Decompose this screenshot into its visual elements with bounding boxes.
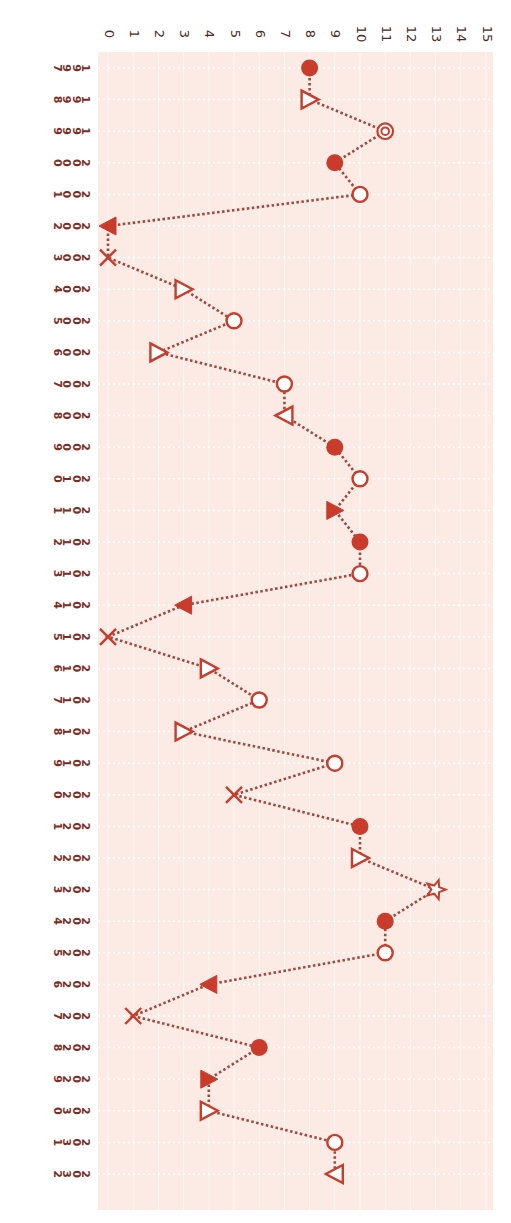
svg-text:9: 9 — [51, 759, 64, 767]
data-point-double-circle — [377, 123, 393, 139]
svg-text:8: 8 — [51, 1044, 64, 1052]
svg-text:0: 0 — [51, 791, 64, 799]
year-tick-label: 2015 — [51, 633, 93, 641]
data-point-open-circle — [327, 1135, 342, 1150]
value-tick-label: 3 — [177, 30, 192, 38]
value-tick-label: 10 — [354, 26, 369, 43]
year-tick-label: 2005 — [51, 317, 93, 325]
year-tick-label: 2001 — [51, 191, 93, 199]
year-tick-label: 2025 — [51, 949, 93, 957]
data-point-open-circle — [353, 471, 368, 486]
data-point-open-circle — [353, 187, 368, 202]
year-tick-label: 2010 — [51, 475, 93, 483]
year-tick-label: 2002 — [51, 222, 93, 230]
data-point-open-circle — [252, 693, 267, 708]
year-tick-label: 2016 — [51, 665, 93, 673]
svg-text:8: 8 — [51, 412, 64, 420]
value-tick-label: 0 — [102, 30, 117, 38]
svg-text:0: 0 — [51, 475, 64, 483]
svg-text:7: 7 — [51, 380, 64, 388]
data-point-open-circle — [327, 756, 342, 771]
svg-text:3: 3 — [51, 570, 64, 578]
svg-text:7: 7 — [51, 696, 64, 704]
year-tick-label: 1998 — [51, 96, 93, 104]
value-tick-label: 11 — [379, 26, 394, 43]
data-point-filled-circle — [326, 154, 343, 171]
data-point-open-circle — [277, 377, 292, 392]
svg-text:6: 6 — [51, 349, 64, 357]
year-tick-label: 2011 — [50, 507, 92, 515]
svg-text:0: 0 — [51, 159, 64, 167]
value-tick-label: 1 — [127, 30, 142, 38]
svg-text:2: 2 — [51, 538, 64, 546]
data-point-filled-circle — [352, 534, 369, 551]
value-tick-label: 4 — [202, 30, 217, 38]
svg-text:7: 7 — [51, 1012, 64, 1020]
year-tick-label: 2018 — [51, 728, 93, 736]
year-tick-label: 2014 — [51, 601, 93, 609]
year-tick-label: 2009 — [51, 443, 93, 451]
svg-text:2: 2 — [51, 222, 64, 230]
value-tick-label: 15 — [480, 26, 495, 43]
svg-text:7: 7 — [51, 64, 64, 72]
year-tick-label: 2017 — [51, 696, 93, 704]
data-point-open-circle — [227, 313, 242, 328]
year-axis-ticks: 1997199819992000200120022003200420052006… — [50, 64, 92, 1178]
year-tick-label: 2006 — [51, 349, 93, 357]
svg-text:1: 1 — [51, 191, 64, 199]
value-tick-label: 5 — [228, 30, 243, 38]
svg-text:4: 4 — [51, 917, 64, 925]
data-point-filled-circle — [377, 913, 394, 930]
value-tick-label: 12 — [404, 26, 419, 43]
value-tick-label: 6 — [253, 30, 268, 38]
value-axis-ticks: 0123456789101112131415 — [102, 26, 495, 43]
svg-text:2: 2 — [51, 1170, 64, 1178]
year-tick-label: 2031 — [51, 1139, 93, 1147]
svg-text:9: 9 — [51, 127, 64, 135]
year-tick-label: 2029 — [51, 1075, 93, 1083]
data-point-filled-circle — [251, 1039, 268, 1056]
line-chart: 0123456789101112131415 19971998199920002… — [0, 0, 511, 1223]
year-tick-label: 2032 — [51, 1170, 93, 1178]
data-point-filled-circle — [352, 818, 369, 835]
value-tick-label: 9 — [328, 30, 343, 38]
value-tick-label: 2 — [152, 30, 167, 38]
svg-text:9: 9 — [51, 443, 64, 451]
year-tick-label: 2030 — [51, 1107, 93, 1115]
svg-text:1: 1 — [51, 823, 64, 831]
svg-text:1: 1 — [50, 507, 63, 515]
year-tick-label: 2012 — [51, 538, 93, 546]
svg-text:6: 6 — [51, 981, 64, 989]
data-point-open-circle — [378, 945, 393, 960]
year-tick-label: 2024 — [51, 917, 93, 925]
year-tick-label: 2027 — [51, 1012, 93, 1020]
year-tick-label: 2003 — [51, 254, 93, 262]
year-tick-label: 2028 — [51, 1044, 93, 1052]
svg-text:4: 4 — [51, 285, 64, 293]
year-tick-label: 2020 — [51, 791, 93, 799]
svg-text:5: 5 — [51, 949, 64, 957]
year-tick-label: 2026 — [51, 981, 93, 989]
data-point-filled-circle — [326, 439, 343, 456]
svg-text:2: 2 — [51, 854, 64, 862]
svg-text:4: 4 — [51, 601, 64, 609]
year-tick-label: 2023 — [51, 886, 93, 894]
svg-text:5: 5 — [51, 633, 64, 641]
year-tick-label: 1997 — [51, 64, 93, 72]
year-tick-label: 2000 — [51, 159, 93, 167]
svg-text:1: 1 — [51, 1139, 64, 1147]
year-tick-label: 2008 — [51, 412, 93, 420]
value-tick-label: 7 — [278, 30, 293, 38]
svg-text:9: 9 — [51, 1075, 64, 1083]
year-tick-label: 1999 — [51, 127, 93, 135]
svg-text:8: 8 — [51, 96, 64, 104]
svg-text:3: 3 — [51, 886, 64, 894]
year-tick-label: 2004 — [51, 285, 93, 293]
year-tick-label: 2019 — [51, 759, 93, 767]
value-tick-label: 13 — [429, 26, 444, 43]
year-tick-label: 2013 — [51, 570, 93, 578]
year-tick-label: 2021 — [51, 823, 93, 831]
value-tick-label: 8 — [303, 30, 318, 38]
data-point-open-circle — [353, 566, 368, 581]
svg-text:8: 8 — [51, 728, 64, 736]
